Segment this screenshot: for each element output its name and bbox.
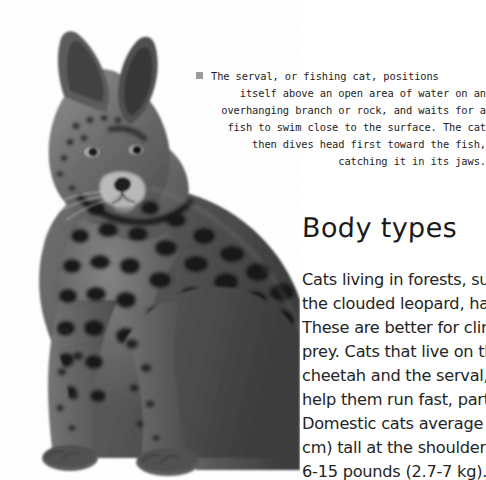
photo-caption: The serval, or fishing cat, positions it…: [196, 68, 486, 170]
book-page: The serval, or fishing cat, positions it…: [0, 0, 486, 480]
body-line-4: prey. Cats that live on th: [302, 340, 486, 364]
body-line-6: help them run fast, partic: [302, 388, 486, 412]
caption-line-1: The serval, or fishing cat, positions: [196, 68, 486, 85]
caption-line-1-text: The serval, or fishing cat, positions: [211, 70, 439, 82]
caption-line-3: overhanging branch or rock, and waits fo…: [196, 102, 486, 119]
section-body-text: Cats living in forests, suc the clouded …: [302, 268, 486, 480]
caption-line-4: fish to swim close to the surface. The c…: [196, 119, 486, 136]
caption-line-6: catching it in its jaws.: [196, 153, 486, 170]
body-line-1: Cats living in forests, suc: [302, 268, 486, 292]
body-line-3: These are better for clim: [302, 316, 486, 340]
body-line-8: cm) tall at the shoulder a: [302, 436, 486, 460]
square-bullet-icon: [196, 72, 203, 79]
caption-line-5: then dives head first toward the fish,: [196, 136, 486, 153]
caption-line-2: itself above an open area of water on an: [196, 85, 486, 102]
section-heading-body-types: Body types: [302, 212, 458, 243]
body-line-9: 6-15 pounds (2.7-7 kg).: [302, 460, 486, 480]
body-line-2: the clouded leopard, hav: [302, 292, 486, 316]
body-line-5: cheetah and the serval, h: [302, 364, 486, 388]
body-line-7: Domestic cats average a: [302, 412, 486, 436]
